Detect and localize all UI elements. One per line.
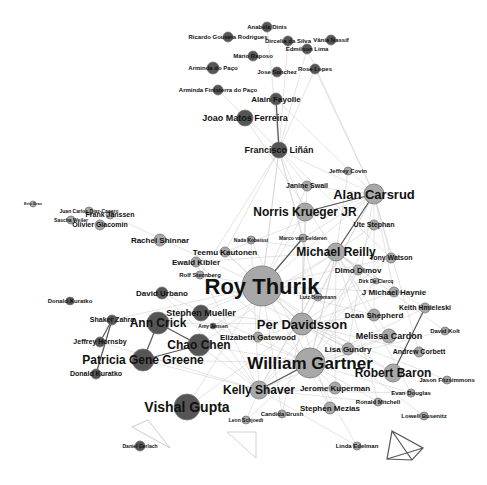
node-label: David Urbano xyxy=(136,289,188,298)
isolated-subgraphs xyxy=(132,420,423,460)
node-label: Vânia Nassif xyxy=(313,37,350,43)
node-label: Rachel Shinnar xyxy=(131,236,189,245)
node-label: Tony Watson xyxy=(369,254,412,262)
node-label: J Michael Haynie xyxy=(362,288,427,297)
labels-layer: Roy ThurikWilliam GartnerPer DavidssonAl… xyxy=(24,24,475,449)
node-label: Ricardo Gouveia Rodrigues xyxy=(188,34,268,40)
node-label: Vishal Gupta xyxy=(144,399,230,415)
node-label: Marco van Gelderen xyxy=(279,235,327,241)
node-label: Evan Douglas xyxy=(391,390,431,396)
node-label: Alain Fayolle xyxy=(251,95,301,104)
node-label: Joao Matos Ferreira xyxy=(202,113,289,123)
node-label: Jerome Kuperman xyxy=(300,384,370,393)
node-label: Arminda Finisterra do Paço xyxy=(179,87,258,93)
node-label: Michael Reilly xyxy=(296,245,376,259)
node-label: Per Davidsson xyxy=(257,317,347,332)
node-label: Lutz Bornmann xyxy=(300,294,337,300)
node-label: Juan Carlos Díaz-Casero xyxy=(60,208,119,214)
node-label: Ute Stephan xyxy=(354,221,395,229)
node-label: Dirk De Clercq xyxy=(359,278,393,284)
node-label: Kelly Shaver xyxy=(223,383,295,397)
node-label: Francisco Liñán xyxy=(244,145,313,155)
node-label: Stephen Mezias xyxy=(300,404,361,413)
node-label: Andrew Corbett xyxy=(393,348,446,355)
node-label: Donald Kuratko xyxy=(48,298,93,304)
node-label: Lowell Busenitz xyxy=(401,413,446,419)
node-label: Dircelia da Silva xyxy=(265,38,312,44)
node-label: Ewald Kibler xyxy=(172,258,220,267)
node-label: Arminda do Paço xyxy=(188,65,238,71)
node-label: Norris Krueger JR xyxy=(253,205,357,219)
node-label: Daniel Gerlach xyxy=(122,443,157,449)
node-label: Anabela Dinis xyxy=(247,24,287,30)
node-label: Nada Kobeissi xyxy=(234,237,269,243)
node-label: Ronald Mitchell xyxy=(356,399,401,405)
node-label: Amy Jensen xyxy=(198,323,227,329)
node-label: Leon Schjoedt xyxy=(229,417,264,423)
node-label: Elizabeth Gatewood xyxy=(220,333,296,342)
node-label: Jose Sanchez xyxy=(257,69,297,75)
node-label: Ann Crick xyxy=(130,316,187,330)
node-label: Rose Lopes xyxy=(298,66,333,72)
node-label: Jason Fitzsimmons xyxy=(419,377,475,383)
node-label: Alan Carsrud xyxy=(333,187,415,202)
node-label: Dimo Dimov xyxy=(335,266,382,275)
node-label: Melissa Cardon xyxy=(356,331,423,341)
node-label: David Kolt xyxy=(430,328,460,334)
node-label: Shaker Zahra xyxy=(90,316,134,323)
node-label: Patricia Gene Greene xyxy=(82,353,204,367)
node-label: Stephen Mueller xyxy=(166,308,236,318)
node-label: Rolf Sternberg xyxy=(179,272,221,278)
node-label: Dean Shepherd xyxy=(345,311,404,320)
figure-caption: Figure (caption cut off at bottom edge) xyxy=(24,478,176,485)
node-label: Donald Kuratko xyxy=(70,370,122,377)
network-graph: Roy ThurikWilliam GartnerPer DavidssonAl… xyxy=(0,0,487,485)
node-label: Jeffrey Hornsby xyxy=(73,338,126,346)
node-label: Jeffrey Covin xyxy=(329,168,367,174)
node-label: Linda Edelman xyxy=(336,443,379,449)
node-label: Edmilson Lima xyxy=(286,46,329,52)
node-label: Eric Gras xyxy=(24,201,43,206)
node-label: Janine Swail xyxy=(286,182,328,189)
node-label: Sascha Weiler xyxy=(54,217,88,223)
node-label: Keith Hmieleski xyxy=(399,304,451,311)
node-label: Candida Brush xyxy=(261,411,304,417)
node-label: Mário Raposo xyxy=(233,53,273,59)
node-label: Teemu Kautonen xyxy=(193,248,257,257)
node-label: Lisa Gundry xyxy=(325,345,372,354)
